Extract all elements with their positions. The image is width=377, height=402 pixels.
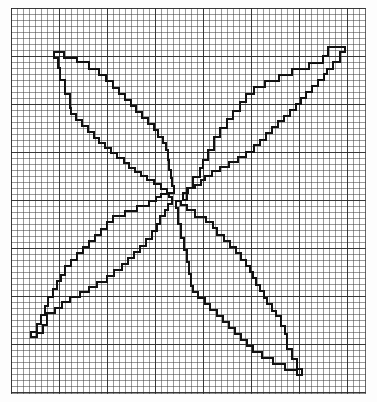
petal-lower-right [176,201,302,375]
graph-paper-sheet: Four-petal stepped outline on graph pape… [0,0,377,402]
petal-upper-right [183,47,345,200]
petal-upper-left [54,52,174,193]
four-petal-figure [0,0,377,402]
petal-lower-left [31,194,172,337]
